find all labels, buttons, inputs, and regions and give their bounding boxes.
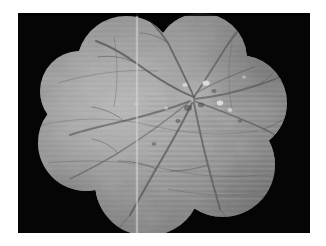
fundus-image-panel (18, 13, 310, 233)
scan-line-artifact (135, 13, 138, 233)
fundus-photograph (18, 13, 310, 233)
figure-page: Retinal fundus montage (grayscale) fundu… (0, 0, 326, 246)
panel-top-band (18, 13, 310, 16)
fundus-image-canvas (18, 13, 310, 233)
retina-field (18, 13, 310, 233)
